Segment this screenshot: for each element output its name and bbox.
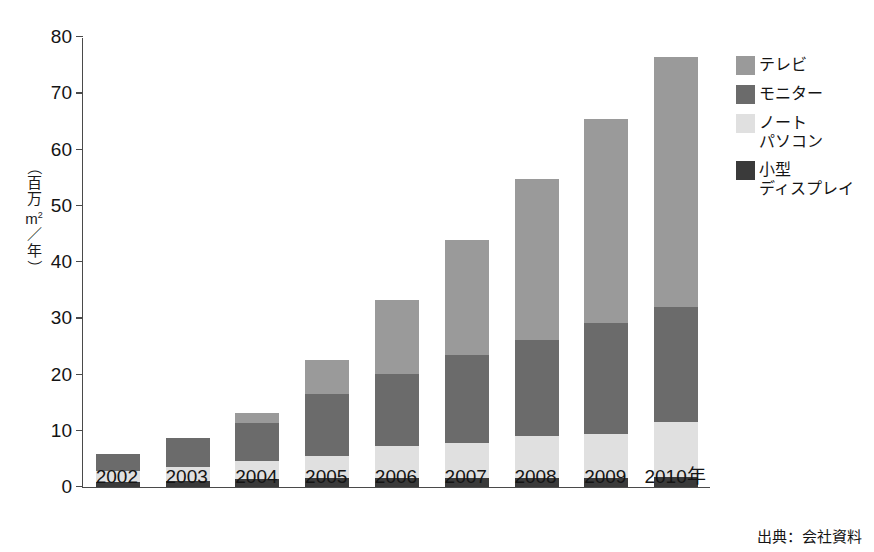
legend-swatch-monitor [736,85,755,104]
legend-label-tv: テレビ [759,55,807,74]
legend-label-notebook: ノート パソコン [759,113,823,151]
bar-group[interactable] [375,300,419,487]
x-axis-tick-label: 2007 [431,466,501,488]
legend-item[interactable]: テレビ [736,55,874,75]
bar-segment-tv[interactable] [515,179,559,340]
plot-area: 01020304050607080 [82,38,710,488]
y-axis-tick-label: 60 [51,139,72,160]
y-axis-tick-label: 80 [51,26,72,47]
legend-item[interactable]: 小型 ディスプレイ [736,160,874,198]
legend-item[interactable]: モニター [736,84,874,104]
x-axis-tick-label: 2004 [222,466,292,488]
y-axis-tick-mark [76,317,83,318]
y-axis-tick-mark [76,261,83,262]
bar-group[interactable] [515,179,559,487]
y-axis-title-unit-m: m2 [20,207,48,227]
bar-segment-tv[interactable] [445,240,489,355]
y-axis-tick-label: 10 [51,420,72,441]
legend-swatch-small [736,161,755,180]
y-axis-title-char-2: 万 [20,191,48,207]
x-axis-tick-label: 2002 [82,466,152,488]
x-axis-tick-label: 2006 [361,466,431,488]
y-axis-tick-label: 20 [51,364,72,385]
x-axis-tick-label: 2005 [291,466,361,488]
bar-segment-monitor[interactable] [166,438,210,467]
y-axis-tick-label: 0 [61,476,72,497]
bar-segment-tv[interactable] [654,57,698,307]
bar-segment-monitor[interactable] [584,323,628,434]
cropped-caption-text: ──── ── ── ─────── ── ───── ─── ──── ── … [8,0,465,6]
bar-segment-tv[interactable] [584,119,628,323]
cropped-caption-strip: ──── ── ── ─────── ── ───── ─── ──── ── … [0,0,874,11]
legend-swatch-tv [736,56,755,75]
bar-segment-tv[interactable] [305,360,349,393]
y-axis-title-close-paren: ） [26,253,42,281]
source-note: 出典：会社資料 [757,528,862,546]
legend-label-small: 小型 ディスプレイ [759,160,854,198]
bar-segment-tv[interactable] [235,413,279,423]
y-axis-tick-label: 70 [51,82,72,103]
y-axis-title: （ 百 万 m2 ／ 年 ） [20,159,48,275]
chart-legend: テレビモニターノート パソコン小型 ディスプレイ [736,55,874,207]
bar-segment-monitor[interactable] [515,340,559,437]
bar-group[interactable] [584,119,628,487]
bar-segment-monitor[interactable] [375,374,419,446]
legend-item[interactable]: ノート パソコン [736,113,874,151]
chart-figure: （ 百 万 m2 ／ 年 ） 01020304050607080 2002200… [0,11,874,552]
bar-segment-monitor[interactable] [654,307,698,422]
y-axis-title-open-paren: （ [26,153,42,181]
y-axis-tick-mark [76,36,83,37]
bar-segment-tv[interactable] [375,300,419,374]
x-axis-tick-label: 2009 [570,466,640,488]
y-axis-tick-label: 40 [51,251,72,272]
bar-group[interactable] [445,240,489,488]
y-axis-tick-label: 30 [51,307,72,328]
bar-segment-monitor[interactable] [235,423,279,461]
legend-label-monitor: モニター [759,84,823,103]
y-axis-tick-mark [76,205,83,206]
bar-segment-monitor[interactable] [305,394,349,456]
x-axis-tick-label: 2008 [501,466,571,488]
bar-group[interactable] [654,57,698,487]
bar-segment-monitor[interactable] [445,355,489,443]
y-axis-tick-mark [76,430,83,431]
x-axis-tick-label: 2010年 [640,466,710,488]
y-axis-title-slash: ／ [20,227,48,243]
y-axis-tick-mark [76,149,83,150]
y-axis-tick-mark [76,92,83,93]
y-axis-tick-mark [76,374,83,375]
bar-series-container [83,38,710,487]
y-axis-tick-label: 50 [51,195,72,216]
legend-swatch-notebook [736,114,755,133]
x-axis-tick-label: 2003 [152,466,222,488]
